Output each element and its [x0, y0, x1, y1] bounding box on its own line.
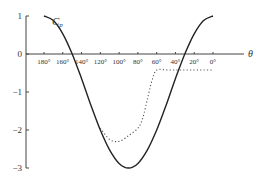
y-tick-label: 1 — [18, 11, 23, 21]
x-tick-label: 100° — [112, 58, 126, 66]
y-tick-label: 0 — [18, 49, 23, 59]
solid-curve — [44, 16, 213, 168]
chart-svg: 10−1−2−3 180°160°140°120°100°80°60°40°20… — [0, 0, 261, 177]
x-tick-label: 120° — [94, 58, 108, 66]
y-tick-label: −3 — [12, 163, 22, 173]
y-tick-label: −2 — [12, 125, 22, 135]
x-tick-label: 20° — [189, 58, 199, 66]
pressure-coefficient-chart: 10−1−2−3 180°160°140°120°100°80°60°40°20… — [0, 0, 261, 177]
x-tick-label: 40° — [171, 58, 181, 66]
x-tick-label: 60° — [152, 58, 162, 66]
theta-axis-label: θ — [248, 48, 253, 59]
cp-label: Cp — [52, 15, 63, 29]
y-ticks: 10−1−2−3 — [12, 11, 29, 173]
x-tick-label: 0° — [210, 58, 217, 66]
y-tick-label: −1 — [12, 87, 22, 97]
x-tick-label: 80° — [133, 58, 143, 66]
x-tick-label: 160° — [56, 58, 70, 66]
x-tick-label: 180° — [37, 58, 51, 66]
